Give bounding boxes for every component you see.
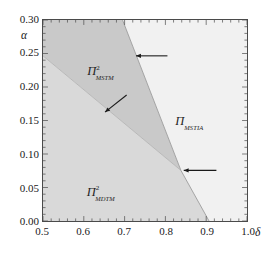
y-tick-label: 0.05 (0, 183, 39, 194)
y-tick-label: 0.10 (0, 149, 39, 160)
y-tick-label: 0.25 (0, 47, 39, 58)
x-tick-label: 0.5 (25, 226, 59, 237)
x-axis-label: δ (255, 226, 260, 238)
x-tick-label: 0.7 (107, 226, 141, 237)
plot-area: Π2MSTM Π2MDTM ΠMSTIA (42, 19, 248, 222)
x-tick-label: 0.8 (149, 226, 183, 237)
x-tick-label: 0.9 (190, 226, 224, 237)
y-tick-label: 0.30 (0, 14, 39, 25)
phase-diagram-figure: 0.30 0.25 0.20 0.15 0.10 0.05 0.00 0.5 0… (0, 0, 272, 255)
y-tick-label: 0.20 (0, 81, 39, 92)
x-tick-label: 0.6 (66, 226, 100, 237)
y-axis-label: α (21, 29, 27, 41)
regions-group (43, 20, 247, 221)
phase-regions-svg (43, 20, 247, 221)
y-tick-label: 0.15 (0, 115, 39, 126)
